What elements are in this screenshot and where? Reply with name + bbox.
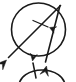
geometry-sketch bbox=[0, 0, 76, 82]
arrowhead-lower-left bbox=[0, 60, 7, 70]
arrowhead-up bbox=[30, 53, 37, 61]
arrowhead-angle-marker bbox=[50, 27, 57, 33]
figure-canvas bbox=[0, 0, 76, 82]
main-circle bbox=[12, 3, 66, 56]
